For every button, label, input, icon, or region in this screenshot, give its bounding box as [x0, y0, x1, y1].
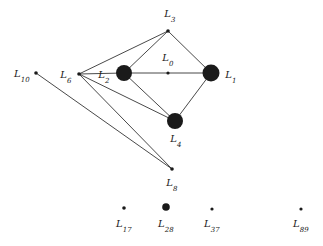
node-l10[interactable]	[34, 71, 38, 75]
node-label-subscript: 3	[171, 16, 176, 24]
node-label-base: L	[98, 69, 105, 80]
node-label-subscript: 10	[21, 76, 30, 84]
node-l1[interactable]	[203, 65, 220, 82]
node-l8[interactable]	[170, 167, 174, 171]
node-label-base: L	[14, 68, 21, 79]
node-l89[interactable]	[299, 207, 302, 210]
node-label-l37: L37	[204, 219, 220, 229]
node-label-l4: L4	[170, 134, 181, 144]
node-label-base: L	[170, 133, 177, 144]
edge-l2-l4	[129, 78, 169, 116]
node-label-base: L	[166, 177, 173, 188]
edge-l10-l8	[36, 73, 172, 169]
node-l3[interactable]	[166, 29, 170, 33]
node-label-subscript: 8	[173, 185, 178, 193]
node-label-subscript: 4	[177, 141, 182, 149]
node-l6[interactable]	[77, 72, 81, 76]
node-label-base: L	[158, 218, 165, 229]
node-label-subscript: 28	[165, 226, 174, 234]
node-label-subscript: 89	[300, 226, 309, 234]
node-label-subscript: 0	[169, 60, 174, 68]
node-label-l2: L2	[98, 70, 109, 80]
node-label-subscript: 17	[123, 226, 132, 234]
node-l2[interactable]	[116, 65, 132, 81]
node-label-l3: L3	[164, 9, 175, 19]
node-l17[interactable]	[122, 206, 126, 210]
node-label-base: L	[164, 8, 171, 19]
node-label-l8: L8	[166, 178, 177, 188]
node-label-base: L	[204, 218, 211, 229]
node-l0[interactable]	[166, 71, 169, 74]
node-label-l89: L89	[293, 219, 309, 229]
node-label-l17: L17	[116, 219, 132, 229]
edge-l6-l8	[79, 74, 172, 169]
graph-diagram: L0L1L2L3L4L6L8L10L17L28L37L89	[0, 0, 323, 246]
node-label-subscript: 6	[67, 77, 72, 85]
node-label-l10: L10	[14, 69, 30, 79]
node-label-base: L	[116, 218, 123, 229]
node-label-l6: L6	[60, 70, 71, 80]
edge-l1-l4	[180, 79, 207, 115]
node-label-base: L	[60, 69, 67, 80]
node-label-subscript: 37	[211, 226, 220, 234]
graph-canvas	[0, 0, 323, 246]
node-l4[interactable]	[167, 113, 183, 129]
node-label-subscript: 2	[105, 77, 110, 85]
node-label-l1: L1	[225, 70, 236, 80]
node-label-base: L	[225, 69, 232, 80]
node-label-subscript: 1	[232, 77, 237, 85]
node-l28[interactable]	[162, 203, 170, 211]
node-label-l0: L0	[162, 53, 173, 63]
node-label-base: L	[162, 52, 169, 63]
node-label-base: L	[293, 218, 300, 229]
node-l37[interactable]	[210, 207, 213, 210]
node-label-l28: L28	[158, 219, 174, 229]
